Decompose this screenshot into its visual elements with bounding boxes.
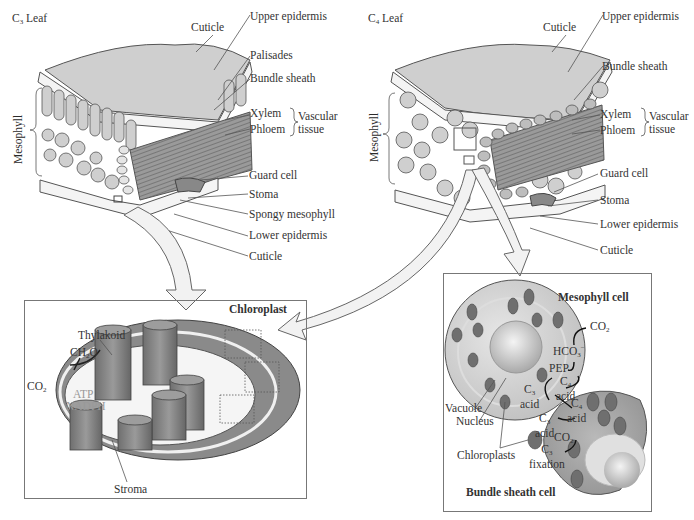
c3-cuticle-bottom-label: Cuticle: [249, 251, 282, 263]
atp-label: ATP: [73, 389, 93, 401]
c3-acid-bundle-label: C3acid: [535, 413, 554, 439]
chloroplasts-label: Chloroplasts: [457, 450, 515, 462]
mesophyll-cell-title: Mesophyll cell: [558, 292, 629, 304]
c4-vascular-tissue-label: Vasculartissue: [649, 110, 689, 136]
c3-guard-cell-label: Guard cell: [249, 170, 297, 182]
c4-cell-panel: [443, 273, 652, 512]
co2-in-label: CO2: [590, 321, 609, 334]
bundle-sheath-cell-title: Bundle sheath cell: [466, 487, 555, 499]
c4-phloem-label: Phloem: [600, 125, 635, 137]
c3-cuticle-top-label: Cuticle: [191, 22, 224, 34]
c3-phloem-label: Phloem: [250, 124, 285, 136]
hco3-label: HCO3−: [553, 345, 585, 359]
stroma-label: Stroma: [114, 484, 147, 496]
ch2o-label: CH2O: [70, 347, 98, 360]
co2-label: CO2: [27, 381, 46, 394]
c3-fixation-label: C3fixation: [529, 444, 565, 470]
c4-xylem-label: Xylem: [600, 109, 631, 121]
c4-leaf-title: C4 Leaf: [368, 13, 403, 26]
c4-stoma-label: Stoma: [600, 195, 629, 207]
c4-mesophyll-label: Mesophyll: [368, 113, 380, 162]
nadph-label: NADPH: [66, 401, 106, 413]
chloroplast-title: Chloroplast: [229, 304, 287, 316]
c3-xylem-label: Xylem: [250, 108, 281, 120]
c4-bundle-sheath-label: Bundle sheath: [602, 61, 667, 73]
c4-cuticle-top-label: Cuticle: [543, 22, 576, 34]
pep-label: PEP: [549, 363, 569, 375]
c3-upper-epidermis-label: Upper epidermis: [250, 11, 327, 23]
thylakoid-label: Thylakoid: [78, 330, 125, 342]
vacuole-label: Vacuole: [445, 403, 482, 415]
c3-leaf-title: C3 Leaf: [12, 13, 47, 26]
c3-vascular-tissue-label: Vasculartissue: [298, 110, 338, 136]
nucleus-label: Nucleus: [456, 416, 494, 428]
c4-acid-bundle-label: C4acid: [567, 398, 586, 424]
c3-spongy-mesophyll-label: Spongy mesophyll: [249, 209, 335, 221]
c4-guard-cell-label: Guard cell: [600, 168, 648, 180]
c4-cuticle-bottom-label: Cuticle: [600, 245, 633, 257]
c3-palisades-label: Palisades: [250, 50, 293, 62]
c3-stoma-label: Stoma: [249, 189, 278, 201]
c3-lower-epidermis-label: Lower epidermis: [249, 230, 327, 242]
c3-acid-mesophyll-label: C3acid: [520, 384, 539, 410]
c4-upper-epidermis-label: Upper epidermis: [602, 11, 679, 23]
c3-leaf-block: [38, 44, 252, 218]
c3-bundle-sheath-label: Bundle sheath: [250, 73, 315, 85]
c4-lower-epidermis-label: Lower epidermis: [600, 219, 678, 231]
c3-mesophyll-label: Mesophyll: [12, 115, 24, 164]
